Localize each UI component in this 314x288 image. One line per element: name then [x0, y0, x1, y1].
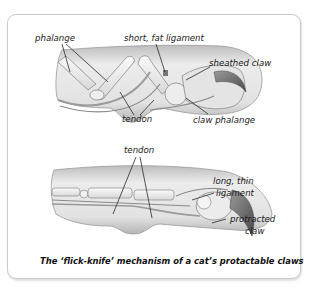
label-protracted-line1: protracted: [229, 214, 276, 224]
label-phalange: phalange: [34, 33, 75, 43]
label-sheathed-claw: sheathed claw: [209, 58, 272, 68]
retracted-paw-illustration: [56, 45, 262, 122]
label-claw-phalange: claw phalange: [193, 115, 255, 125]
label-short-fat-ligament: short, fat ligament: [124, 33, 205, 43]
label-long-thin-line2: ligament: [216, 188, 255, 198]
label-long-thin-line1: long, thin: [213, 176, 254, 186]
label-protracted-line2: claw: [245, 226, 265, 236]
figure-caption: The ‘flick-knife’ mechanism of a cat’s p…: [40, 256, 304, 266]
cat-claw-diagram: phalange short, fat ligament sheathed cl…: [0, 0, 314, 288]
label-tendon-bottom: tendon: [124, 145, 154, 155]
label-tendon-top: tendon: [122, 114, 152, 124]
